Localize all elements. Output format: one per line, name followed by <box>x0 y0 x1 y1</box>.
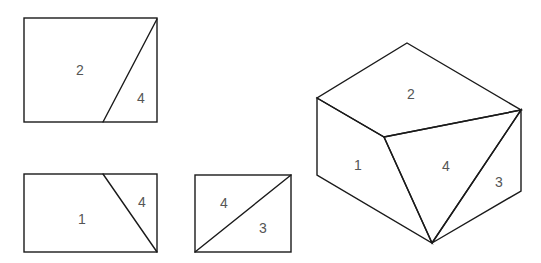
iso-face-1 <box>317 98 432 243</box>
iso-face-3 <box>432 110 521 243</box>
iso-face-2 <box>317 43 521 137</box>
front-view-outline <box>24 174 157 252</box>
side-view-divider <box>195 175 291 252</box>
face-label-1: 1 <box>354 157 362 173</box>
top-view-outline <box>24 18 157 122</box>
face-label-1: 1 <box>78 211 86 227</box>
face-label-2: 2 <box>407 86 415 102</box>
top-view-divider <box>103 19 157 122</box>
face-label-2: 2 <box>76 62 84 78</box>
diagram-canvas: 2 4 1 4 4 3 2 1 4 3 <box>0 0 541 263</box>
front-view-divider <box>103 174 157 252</box>
top-view: 2 4 <box>24 18 157 122</box>
face-label-4: 4 <box>220 195 228 211</box>
side-view: 4 3 <box>195 175 291 252</box>
face-label-3: 3 <box>495 174 503 190</box>
face-label-3: 3 <box>259 220 267 236</box>
face-label-4: 4 <box>442 158 450 174</box>
face-label-4: 4 <box>137 90 145 106</box>
isometric-view: 2 1 4 3 <box>317 43 521 243</box>
face-label-4: 4 <box>138 194 146 210</box>
front-view: 1 4 <box>24 174 157 252</box>
